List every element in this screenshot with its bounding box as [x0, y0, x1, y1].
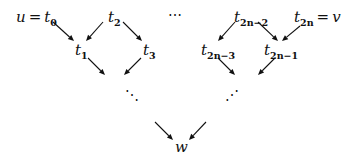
node-t2n-1: t2n−1: [264, 41, 298, 61]
edge-t3-to-ellipsis_left: [128, 58, 141, 71]
node-t2: t2: [108, 8, 121, 28]
ellipsis-top: ⋯: [168, 7, 182, 23]
node-t1: t1: [75, 41, 88, 61]
edge-ellipsis_left-to-w: [155, 122, 169, 136]
convergence-diagram: u=t0 t2 ⋯ t2n−2 t2n=v t1 t3 t2n−3 t2n−1 …: [0, 0, 351, 160]
edge-t2n-to-t2n1: [287, 26, 300, 37]
ellipsis-left: ⋱: [125, 87, 139, 103]
node-u-t0: u=t0: [16, 8, 57, 28]
edge-t2-to-t1: [90, 22, 103, 37]
ellipsis-right: ⋰: [225, 87, 239, 103]
edge-t2-to-t3: [123, 22, 138, 37]
node-t2n-3: t2n−3: [201, 41, 235, 61]
node-t2n-2: t2n−2: [234, 8, 268, 28]
node-t2n-v: t2n=v: [294, 8, 341, 28]
node-w: w: [175, 138, 188, 156]
edge-ellipsis_right-to-w: [193, 122, 206, 136]
edge-t1-to-ellipsis_left: [88, 58, 101, 71]
edges: [53, 22, 300, 140]
node-t3: t3: [143, 41, 156, 61]
